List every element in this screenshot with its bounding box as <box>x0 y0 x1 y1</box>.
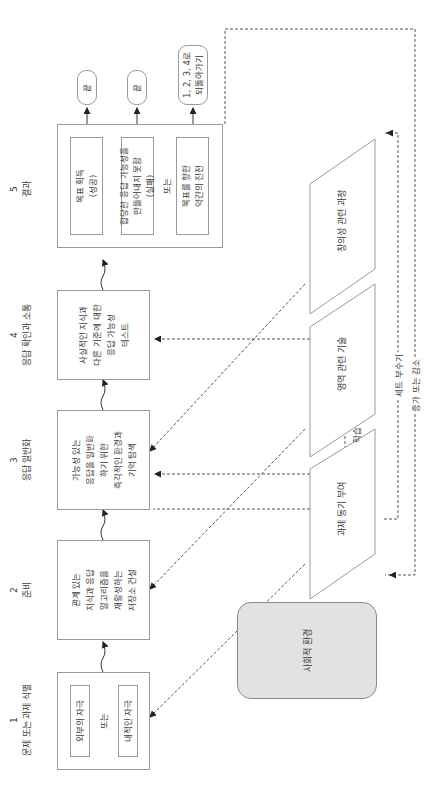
set-breaking-label: 세트 부수기 <box>392 352 404 399</box>
task-motivation-label: 과제 동기 부여 <box>335 459 348 559</box>
domain-skills-label: 영역 관련 기술 <box>335 314 348 414</box>
componential-model-diagram: 1 문제 또는 과제 식별 2 준비 3 응답 일반화 4 응답 확인과 소통 … <box>0 0 437 809</box>
increase-decrease-label: 증가 또는 감소 <box>409 357 421 414</box>
learning-label: 학습 <box>350 427 362 443</box>
social-environment-box: 사회적 환경 <box>237 602 377 699</box>
creativity-label: 창의성 관련 과정 <box>335 171 348 271</box>
